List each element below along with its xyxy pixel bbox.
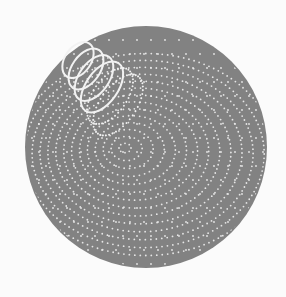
dotted-sphere-artwork bbox=[0, 0, 286, 297]
illustration-canvas bbox=[0, 0, 286, 297]
